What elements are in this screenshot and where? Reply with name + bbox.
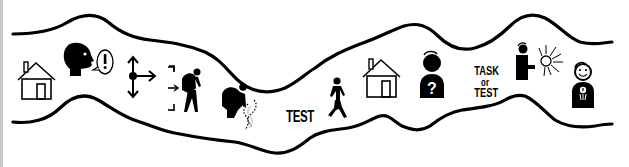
walking-person-icon (328, 77, 347, 118)
test-label: TEST (286, 108, 314, 126)
house-icon (363, 59, 400, 97)
journey-diagram: ? (0, 0, 629, 167)
direction-arrows-icon (128, 57, 155, 97)
task-or-test-label: TASK or TEST (474, 65, 496, 99)
hiker-entering-icon (168, 66, 201, 112)
house-icon (18, 62, 55, 99)
smiling-person-medal-icon (572, 63, 594, 108)
task-or-test-line-test: TEST (474, 87, 496, 99)
speaking-head-exclamation-icon (64, 43, 113, 76)
svg-text:?: ? (427, 80, 437, 97)
person-question-icon: ? (420, 51, 444, 98)
person-holding-sun-icon (516, 43, 563, 80)
